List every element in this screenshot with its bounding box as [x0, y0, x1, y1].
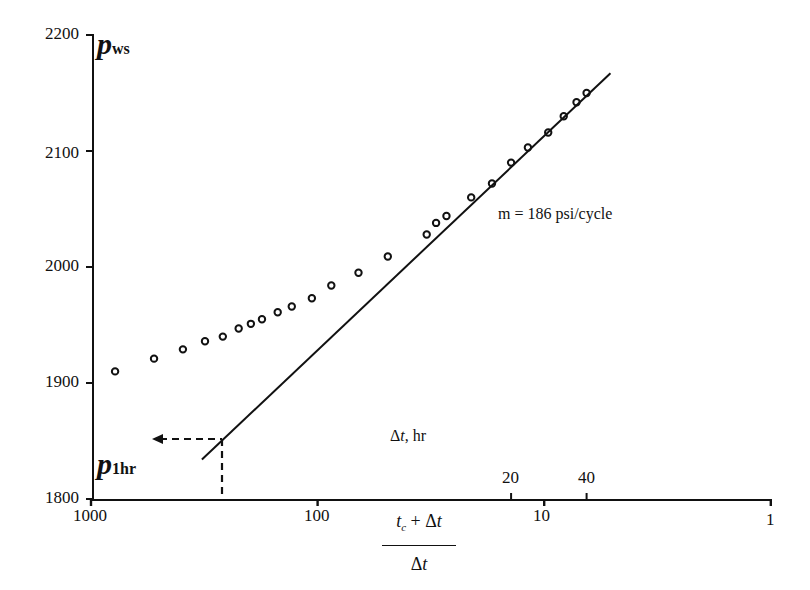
fraction-denominator: Δt [382, 554, 456, 575]
slope-annotation: m = 186 psi/cycle [498, 205, 612, 223]
data-point-circle-icon [525, 144, 531, 150]
dt-tick-label-40: 40 [578, 468, 595, 488]
p1hr-symbol: p [97, 447, 112, 480]
data-point-circle-icon [274, 309, 280, 315]
data-point-circle-icon [112, 368, 118, 374]
p1hr-subscript: 1hr [112, 460, 136, 477]
frac-t: t [437, 511, 442, 531]
y-tick-label-1800: 1800 [45, 488, 79, 508]
data-point-circle-icon [248, 321, 254, 327]
dt-tick-label-20: 20 [502, 468, 519, 488]
frac-plus-delta: + Δ [406, 511, 437, 531]
dt-unit: , hr [405, 427, 426, 444]
data-point-circle-icon [489, 180, 495, 186]
data-point-circle-icon [220, 333, 226, 339]
y-tick-label-2000: 2000 [45, 256, 79, 276]
data-point-circle-icon [309, 295, 315, 301]
data-point-circle-icon [443, 213, 449, 219]
data-point-circle-icon [235, 325, 241, 331]
pws-symbol: p [97, 27, 112, 60]
data-point-circle-icon [151, 355, 157, 361]
p1hr-label: p1hr [97, 447, 136, 481]
data-point-circle-icon [433, 220, 439, 226]
data-point-circle-icon [202, 338, 208, 344]
x-tick-label-100: 100 [304, 506, 330, 526]
horner-plot [0, 0, 810, 590]
x-tick-label-1: 1 [766, 510, 775, 530]
y-tick-label-2200: 2200 [45, 24, 79, 44]
data-point-circle-icon [424, 231, 430, 237]
frac-den-t: t [422, 554, 427, 574]
y-tick-label-2100: 2100 [45, 143, 79, 163]
data-point-circle-icon [508, 159, 514, 165]
x-tick-label-10: 10 [533, 506, 550, 526]
data-point-circle-icon [573, 99, 579, 105]
fraction-bar [382, 545, 456, 546]
data-point-circle-icon [468, 194, 474, 200]
x-axis-title-fraction: tc + Δt Δt [382, 511, 456, 575]
x-tick-label-1000: 1000 [73, 506, 107, 526]
data-points [112, 90, 590, 375]
semilog-straight-line [202, 73, 611, 459]
y-axis-title-pws: pws [97, 27, 130, 61]
data-point-circle-icon [583, 90, 589, 96]
y-tick-label-1900: 1900 [45, 372, 79, 392]
data-point-circle-icon [289, 303, 295, 309]
frac-den-delta: Δ [411, 554, 423, 574]
dt-axis-title: Δt, hr [390, 427, 426, 445]
data-point-circle-icon [259, 316, 265, 322]
data-point-circle-icon [180, 346, 186, 352]
pws-subscript: ws [112, 40, 130, 57]
p1hr-arrow-icon [152, 434, 163, 444]
dt-delta: Δ [390, 427, 400, 444]
fraction-numerator: tc + Δt [382, 511, 456, 533]
data-point-circle-icon [385, 253, 391, 259]
data-point-circle-icon [355, 270, 361, 276]
data-point-circle-icon [328, 282, 334, 288]
